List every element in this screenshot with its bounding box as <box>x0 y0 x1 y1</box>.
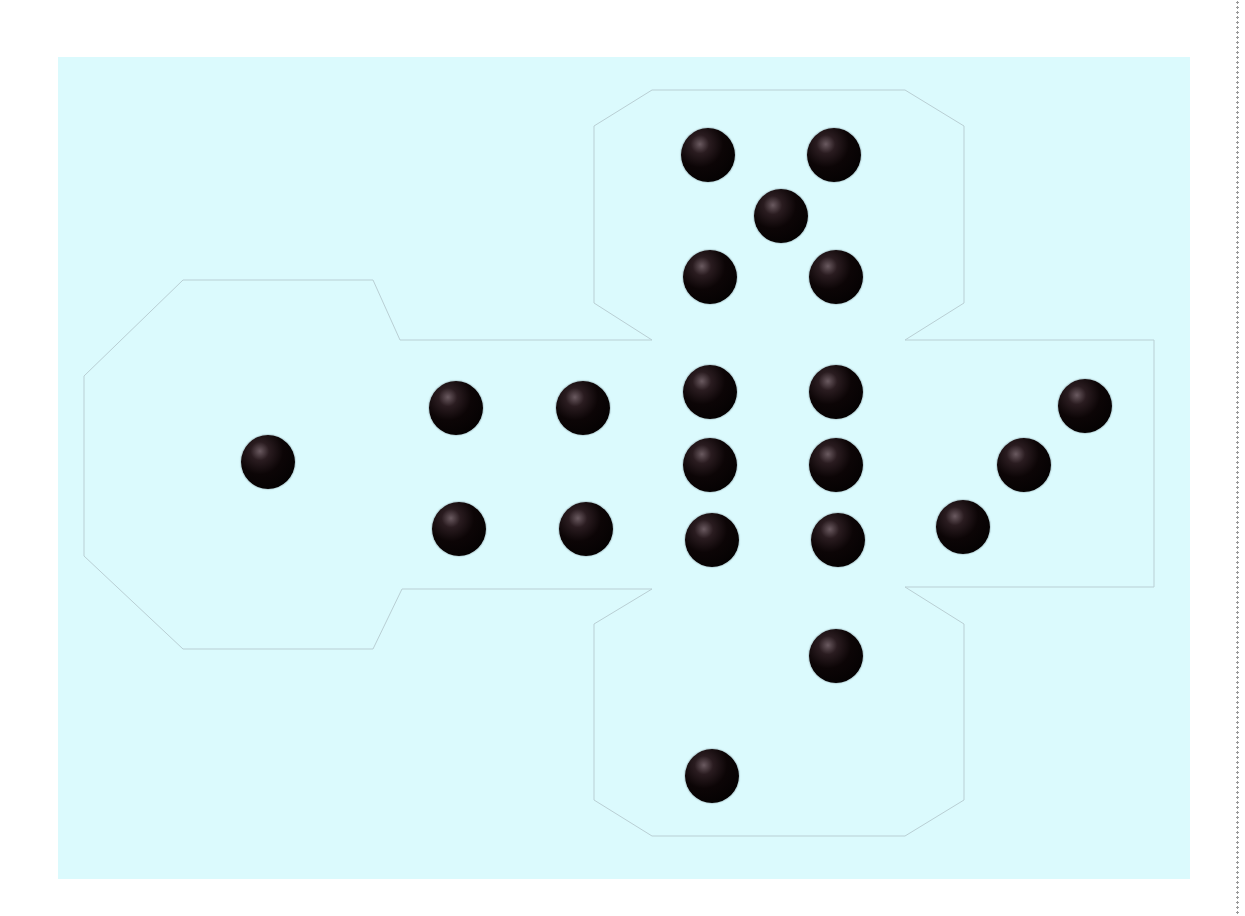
pip-center-4 <box>809 438 863 492</box>
pip-top-2 <box>807 128 861 182</box>
pip-top-5 <box>809 250 863 304</box>
pip-left-1 <box>241 435 295 489</box>
pip-top-1 <box>681 128 735 182</box>
pip-top-4 <box>683 250 737 304</box>
pip-center-left-4 <box>559 502 613 556</box>
pip-bottom-2 <box>685 749 739 803</box>
pip-right-2 <box>997 438 1051 492</box>
pip-bottom-1 <box>809 629 863 683</box>
pip-center-1 <box>683 365 737 419</box>
pip-center-3 <box>683 438 737 492</box>
pip-right-1 <box>1058 379 1112 433</box>
pip-center-5 <box>685 513 739 567</box>
pip-center-left-2 <box>556 381 610 435</box>
pip-center-left-3 <box>432 502 486 556</box>
pip-center-6 <box>811 513 865 567</box>
pip-right-3 <box>936 500 990 554</box>
pip-top-3 <box>754 189 808 243</box>
pip-center-2 <box>809 365 863 419</box>
pip-center-left-1 <box>429 381 483 435</box>
perforation-edge <box>1236 0 1239 916</box>
